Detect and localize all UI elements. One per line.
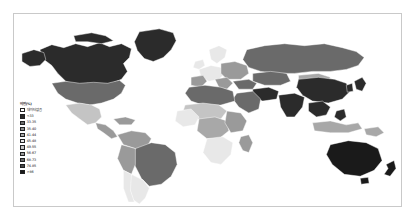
legend-label-1: 33-35 [27, 120, 36, 124]
legend-swatch-no-data [20, 108, 25, 112]
legend-swatch-1 [20, 121, 25, 125]
legend-swatch-4 [20, 139, 25, 143]
legend-swatch-9 [20, 170, 25, 174]
legend-swatch-0 [20, 114, 25, 118]
legend-swatch-3 [20, 133, 25, 137]
legend-label-5: 49-55 [27, 145, 36, 149]
legend-label-3: 41-44 [27, 133, 36, 137]
legend-title: 비만(%) [20, 102, 62, 107]
legend-label-7: 68-73 [27, 158, 36, 162]
legend-swatch-2 [20, 127, 25, 131]
legend-swatch-6 [20, 152, 25, 156]
legend-label-6: 56-67 [27, 151, 36, 155]
legend-label-0: <33 [27, 114, 34, 118]
map-legend: 비만(%) 데이터 없음 <33 33-35 35-40 41-44 45-48 [20, 102, 62, 175]
legend-label-4: 45-48 [27, 139, 36, 143]
world-choropleth-map [14, 14, 401, 206]
country-kazakhstan [253, 71, 291, 85]
figure-frame: 비만(%) 데이터 없음 <33 33-35 35-40 41-44 45-48 [13, 13, 402, 207]
country-tasmania [360, 177, 369, 184]
legend-item-9: >86 [20, 169, 62, 175]
legend-label-8: 74-85 [27, 164, 36, 168]
legend-swatch-7 [20, 158, 25, 162]
legend-label-no-data: 데이터 없음 [27, 108, 42, 112]
legend-label-9: >86 [27, 170, 34, 174]
legend-swatch-5 [20, 145, 25, 149]
legend-label-2: 35-40 [27, 127, 36, 131]
legend-swatch-8 [20, 164, 25, 168]
